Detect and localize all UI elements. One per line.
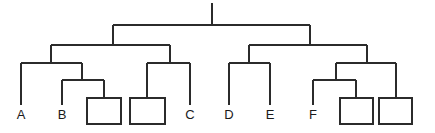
tree-leaf-label-f: F: [309, 107, 317, 122]
tree-edges: [21, 3, 396, 105]
tree-leaf-label-e: E: [266, 107, 275, 122]
tree-leaf-labels: ABCDEF: [17, 107, 317, 122]
tree-leaf-label-a: A: [17, 107, 26, 122]
tree-node-box-3[interactable]: [340, 98, 373, 124]
tree-leaf-label-c: C: [185, 107, 194, 122]
tree-diagram-canvas: ABCDEF: [0, 0, 435, 133]
tree-diagram: ABCDEF: [0, 0, 435, 133]
tree-node-box-4[interactable]: [379, 98, 412, 124]
tree-leaf-label-d: D: [224, 107, 233, 122]
tree-leaf-label-b: B: [58, 107, 67, 122]
tree-node-box-2[interactable]: [130, 98, 165, 124]
tree-boxes: [87, 98, 412, 124]
tree-node-box-1[interactable]: [87, 98, 121, 124]
